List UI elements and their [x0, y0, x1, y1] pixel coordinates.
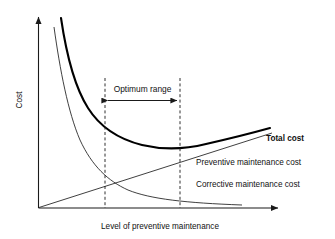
- chart-canvas: Optimum range Total cost Preventive main…: [0, 0, 335, 239]
- series-label-corrective-maintenance-cost: Corrective maintenance cost: [196, 180, 300, 189]
- x-axis-title: Level of preventive maintenance: [101, 222, 219, 231]
- y-axis-title: Cost: [15, 91, 24, 109]
- maintenance-cost-chart: Optimum range Total cost Preventive main…: [0, 0, 335, 239]
- series-label-total-cost: Total cost: [266, 134, 304, 143]
- chart-background: [0, 0, 335, 239]
- optimum-range-label: Optimum range: [114, 84, 172, 94]
- series-label-preventive-maintenance-cost: Preventive maintenance cost: [196, 158, 302, 167]
